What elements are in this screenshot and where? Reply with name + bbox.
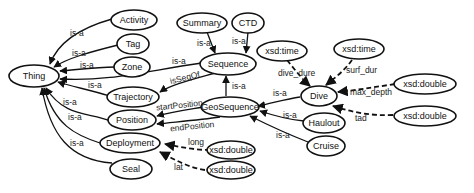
- svg-text:CTD: CTD: [239, 18, 258, 28]
- svg-text:Activity: Activity: [120, 15, 149, 25]
- edge-dive-is-a-geosequence: is-a: [258, 88, 300, 106]
- node-geosequence: GeoSequence: [201, 97, 259, 117]
- svg-text:Summary: Summary: [183, 18, 222, 28]
- svg-text:Thing: Thing: [23, 71, 46, 81]
- svg-text:xsd:double: xsd:double: [403, 79, 447, 89]
- edge-label: is-a: [70, 138, 84, 148]
- svg-text:GeoSequence: GeoSequence: [201, 102, 259, 112]
- node-summary: Summary: [177, 13, 227, 33]
- edge-label: lat: [174, 162, 184, 172]
- edge-ctd-is-a-sequence: is-a: [232, 32, 248, 53]
- svg-text:Seal: Seal: [122, 164, 140, 174]
- node-xsd-time-dive-dur: xsd:time: [257, 41, 307, 61]
- edge-geosequence-is-a-sequence: is-a: [226, 76, 246, 96]
- edge-label: is-a: [283, 110, 297, 120]
- svg-text:xsd:double: xsd:double: [209, 145, 253, 155]
- edge-max-depth: max_depth: [338, 84, 395, 97]
- edge-label: is-a: [232, 81, 246, 91]
- node-xsd-double-lat: xsd:double: [207, 161, 255, 179]
- edge-trajectory-isseqof-sequence: isSeqOf: [160, 69, 215, 92]
- node-xsd-double-max-depth: xsd:double: [394, 74, 456, 94]
- svg-text:Deployment: Deployment: [106, 138, 155, 148]
- node-ctd: CTD: [232, 13, 264, 33]
- node-xsd-double-long: xsd:double: [207, 141, 255, 159]
- edge-summary-is-a-sequence: is-a: [197, 32, 215, 53]
- edge-label: is-a: [276, 130, 290, 140]
- edge-label: endPosition: [170, 119, 215, 134]
- edge-geosequence-startposition: startPosition: [156, 98, 204, 116]
- node-haulout: Haulout: [303, 113, 345, 133]
- node-tag: Tag: [117, 34, 149, 54]
- node-deployment: Deployment: [100, 133, 160, 153]
- edge-surf-dur: surf_dur: [326, 60, 377, 85]
- node-thing: Thing: [9, 65, 59, 87]
- edge-seal-is-a-thing: is-a: [42, 88, 112, 163]
- svg-text:Sequence: Sequence: [208, 59, 249, 69]
- node-position: Position: [108, 110, 156, 130]
- edge-label: is-a: [172, 56, 186, 66]
- ontology-diagram: is-a is-a is-a is-a is-a is-a is-a is-a …: [0, 0, 474, 193]
- edge-label: is-a: [197, 38, 211, 48]
- edge-zone-is-a-thing: is-a: [60, 60, 115, 71]
- edge-label: tad: [355, 113, 367, 123]
- svg-text:Zone: Zone: [122, 62, 143, 72]
- edge-label: isSeqOf: [169, 69, 201, 86]
- svg-text:Trajectory: Trajectory: [113, 92, 153, 102]
- edge-label: is-a: [232, 36, 246, 46]
- svg-text:xsd:double: xsd:double: [403, 111, 447, 121]
- edge-lat: lat: [160, 152, 205, 172]
- edge-label: is-a: [80, 60, 94, 70]
- svg-text:Cruise: Cruise: [313, 141, 339, 151]
- edge-label: is-a: [72, 48, 86, 58]
- node-activity: Activity: [111, 10, 157, 30]
- edge-label: startPosition: [156, 98, 204, 113]
- svg-text:Haulout: Haulout: [308, 118, 340, 128]
- node-xsd-time-surf-dur: xsd:time: [334, 39, 384, 59]
- edge-label: is-a: [273, 88, 287, 98]
- edge-label: is-a: [70, 28, 84, 38]
- node-sequence: Sequence: [200, 53, 256, 75]
- node-zone: Zone: [114, 57, 150, 77]
- svg-text:xsd:time: xsd:time: [342, 44, 376, 54]
- edge-long: long: [165, 137, 210, 150]
- edge-label: surf_dur: [346, 65, 377, 75]
- edge-label: max_depth: [350, 87, 392, 97]
- node-dive: Dive: [301, 86, 337, 106]
- edge-label: long: [188, 137, 204, 147]
- svg-text:Dive: Dive: [310, 91, 328, 101]
- node-cruise: Cruise: [307, 136, 345, 156]
- edge-trajectory-is-a-thing: is-a: [58, 80, 110, 96]
- node-seal: Seal: [110, 159, 152, 179]
- edge-label: dive_dure: [278, 68, 316, 78]
- edge-label: is-a: [88, 80, 102, 90]
- edge-label: is-a: [63, 97, 77, 107]
- node-xsd-double-tad: xsd:double: [394, 106, 456, 126]
- svg-text:xsd:double: xsd:double: [209, 165, 253, 175]
- svg-text:Position: Position: [116, 115, 148, 125]
- edge-haulout-is-a-geosequence: is-a: [260, 110, 304, 121]
- node-trajectory: Trajectory: [107, 87, 159, 107]
- svg-text:xsd:time: xsd:time: [265, 46, 299, 56]
- edge-label: is-a: [68, 112, 82, 122]
- edge-geosequence-endposition: endPosition: [157, 117, 220, 134]
- svg-text:Tag: Tag: [126, 39, 141, 49]
- edge-dive-dure: dive_dure: [278, 60, 316, 86]
